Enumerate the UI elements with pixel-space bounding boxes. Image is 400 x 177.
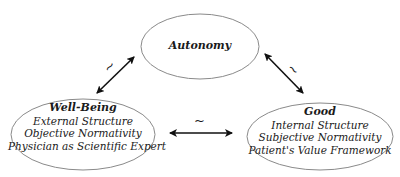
good-line-3: Patient's Value Framework — [247, 144, 393, 157]
autonomy-node-title: Autonomy — [140, 40, 260, 53]
good-line-1: Internal Structure — [247, 119, 393, 132]
well-being-line-3: Physician as Scientific Expert — [8, 140, 158, 153]
good-node: Good Internal Structure Subjective Norma… — [247, 106, 393, 156]
autonomy-node: Autonomy — [140, 40, 260, 53]
well-being-node: Well-Being External Structure Objective … — [8, 102, 158, 152]
edge-label-well-being-good: ~ — [194, 114, 205, 127]
well-being-line-2: Objective Normativity — [8, 127, 158, 140]
autonomy-good-arrow — [265, 54, 303, 93]
good-node-title: Good — [247, 106, 393, 119]
good-line-2: Subjective Normativity — [247, 131, 393, 144]
well-being-node-title: Well-Being — [8, 102, 158, 115]
well-being-line-1: External Structure — [8, 115, 158, 128]
